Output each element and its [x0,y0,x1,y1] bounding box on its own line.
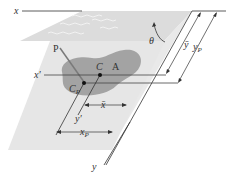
area-label: A [112,61,120,72]
hydrostatic-diagram: x x′ P C A CP y′ x̄ xP y θ ȳ yP [0,0,234,177]
centroid-label: C [96,61,103,72]
center-of-pressure-point [82,81,86,85]
centroid-point [98,73,102,77]
y-p-arrow-bottom [178,78,182,83]
y-p-arrow-top [213,12,217,17]
y-p-label: yP [192,41,202,54]
y-prime-label: y′ [74,113,82,124]
pressure-line-label: P [53,43,59,54]
x-bar-label: x̄ [100,99,106,110]
y-bar-arrow-top [197,12,201,17]
liquid-surface [20,11,192,41]
x-axis-label: x [13,5,19,16]
y-bar-arrow-bottom [166,69,170,74]
angle-label: θ [149,35,154,46]
y-bar-label: ȳ [183,39,189,50]
x-prime-label: x′ [33,69,41,80]
y-axis-label: y [91,161,97,172]
